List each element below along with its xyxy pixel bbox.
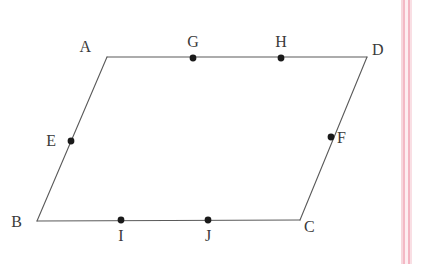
point-label-J: J xyxy=(205,227,211,244)
point-dot-J xyxy=(205,217,212,224)
point-label-F: F xyxy=(337,129,346,146)
point-dot-H xyxy=(278,55,285,62)
point-label-I: I xyxy=(118,227,123,244)
point-dot-I xyxy=(118,217,125,224)
point-label-H: H xyxy=(275,33,287,50)
point-dot-G xyxy=(190,55,197,62)
edge-C-B xyxy=(37,220,300,221)
vertex-label-B: B xyxy=(11,213,22,230)
vertex-label-C: C xyxy=(304,218,315,235)
point-label-E: E xyxy=(46,132,56,149)
point-labels: E F G H I J xyxy=(46,33,346,244)
parallelogram-edges xyxy=(37,57,367,221)
point-label-G: G xyxy=(187,33,199,50)
vertex-label-D: D xyxy=(372,41,384,58)
marked-point-dots xyxy=(68,55,335,224)
scan-stripe-outer-right xyxy=(410,0,412,264)
vertex-label-A: A xyxy=(79,38,91,55)
geometry-diagram: A B C D E F G H I J xyxy=(0,0,422,264)
point-dot-F xyxy=(328,134,335,141)
point-dot-E xyxy=(68,138,75,145)
parallelogram-figure: A B C D E F G H I J xyxy=(0,0,422,264)
